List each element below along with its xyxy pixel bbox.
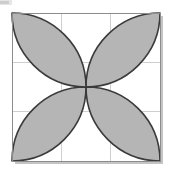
- top-left-scan-artifact-2: [0, 1, 9, 4]
- figure-canvas: Four-petal quatrefoil inscribed in a squ…: [0, 0, 172, 177]
- quatrefoil-diagram: Four-petal quatrefoil inscribed in a squ…: [0, 0, 172, 177]
